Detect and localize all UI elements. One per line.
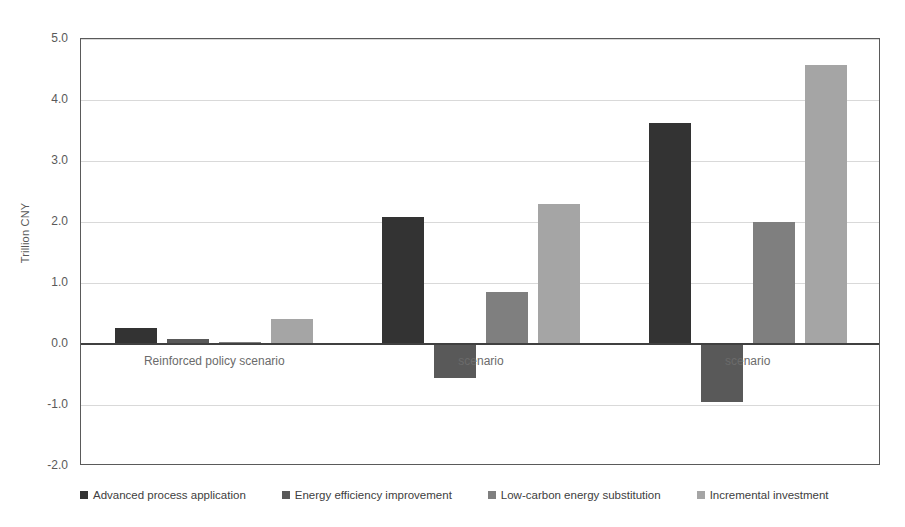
legend-swatch-icon xyxy=(282,491,290,499)
bar xyxy=(271,319,313,344)
gridline xyxy=(81,100,879,101)
plot-area: Reinforced policy scenarioscenarioscenar… xyxy=(80,38,880,465)
legend-swatch-icon xyxy=(80,491,88,499)
category-label: Reinforced policy scenario xyxy=(144,354,285,368)
y-tick-label: 0.0 xyxy=(51,336,68,350)
bar xyxy=(805,65,847,344)
bar xyxy=(649,123,691,344)
y-tick-label: 4.0 xyxy=(51,92,68,106)
bar xyxy=(382,217,424,344)
zero-baseline xyxy=(81,343,879,345)
y-tick-label: -1.0 xyxy=(47,397,68,411)
y-tick-label: 5.0 xyxy=(51,31,68,45)
legend-swatch-icon xyxy=(697,491,705,499)
bar-chart: Trillion CNY 5.04.03.02.01.00.0-1.0-2.0 … xyxy=(0,0,905,527)
legend-label: Low-carbon energy substitution xyxy=(501,489,661,501)
y-tick-label: -2.0 xyxy=(47,458,68,472)
bar xyxy=(701,344,743,402)
bar xyxy=(538,204,580,344)
legend-swatch-icon xyxy=(488,491,496,499)
bar xyxy=(486,292,528,344)
bar xyxy=(115,328,157,344)
legend-item[interactable]: Advanced process application xyxy=(80,489,246,501)
legend-item[interactable]: Energy efficiency improvement xyxy=(282,489,452,501)
gridline xyxy=(81,161,879,162)
legend-label: Incremental investment xyxy=(710,489,829,501)
y-tick-label: 1.0 xyxy=(51,275,68,289)
legend-label: Energy efficiency improvement xyxy=(295,489,452,501)
y-axis-ticks: 5.04.03.02.01.00.0-1.0-2.0 xyxy=(30,38,74,465)
gridline xyxy=(81,39,879,40)
y-tick-label: 3.0 xyxy=(51,153,68,167)
y-tick-label: 2.0 xyxy=(51,214,68,228)
chart-legend: Advanced process applicationEnergy effic… xyxy=(80,484,880,506)
legend-label: Advanced process application xyxy=(93,489,246,501)
category-label: scenario xyxy=(458,354,503,368)
legend-item[interactable]: Incremental investment xyxy=(697,489,829,501)
gridline xyxy=(81,405,879,406)
category-label: scenario xyxy=(725,354,770,368)
legend-item[interactable]: Low-carbon energy substitution xyxy=(488,489,661,501)
bar xyxy=(753,222,795,344)
